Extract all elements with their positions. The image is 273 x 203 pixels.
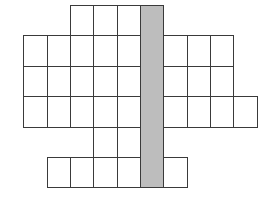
grid-cell [70, 5, 94, 36]
grid-cell [23, 66, 48, 97]
grid-cell [47, 35, 71, 67]
grid-cell [93, 127, 118, 158]
grid-cell [210, 96, 234, 128]
grid-cell [47, 157, 71, 188]
grid-cell [93, 157, 118, 188]
grid-cell [93, 35, 118, 67]
grid-figure [0, 0, 273, 203]
grid-cell [117, 127, 141, 158]
grid-cell [233, 96, 258, 128]
grid-cell [117, 96, 141, 128]
grid-cell [70, 96, 94, 128]
grid-cell [117, 157, 141, 188]
grid-cell [23, 96, 48, 128]
grid-cell [187, 66, 211, 97]
grid-cell [163, 157, 188, 188]
grid-cell [210, 66, 234, 97]
grid-cell [70, 157, 94, 188]
grid-cell [163, 96, 188, 128]
grid-cell [70, 35, 94, 67]
grid-cell [163, 35, 188, 67]
grid-cell [117, 35, 141, 67]
grid-cell [187, 35, 211, 67]
grid-cell [117, 5, 141, 36]
grid-cell [93, 96, 118, 128]
grid-cell [163, 66, 188, 97]
grid-cell [187, 96, 211, 128]
grid-cell [93, 5, 118, 36]
grid-cell [47, 66, 71, 97]
shaded-column [140, 5, 164, 188]
grid-cell [210, 35, 234, 67]
grid-cell [117, 66, 141, 97]
grid-cell [93, 66, 118, 97]
grid-cell [70, 66, 94, 97]
grid-cell [47, 96, 71, 128]
grid-cell [23, 35, 48, 67]
